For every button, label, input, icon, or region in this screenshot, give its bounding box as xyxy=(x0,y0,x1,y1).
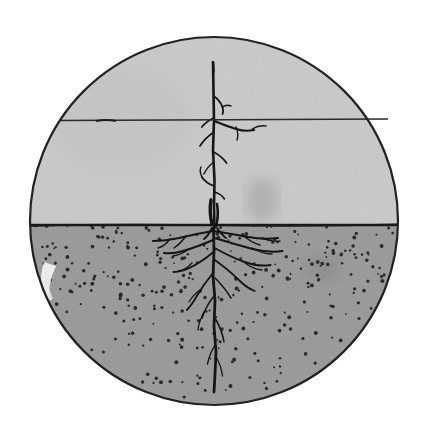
stipple-dot xyxy=(329,316,333,320)
stipple-dot xyxy=(153,307,156,310)
stipple-dot xyxy=(117,270,120,273)
stipple-dot xyxy=(128,333,130,335)
trunk xyxy=(213,62,215,228)
trunk-base-thick xyxy=(210,200,212,224)
stipple-dot xyxy=(387,226,390,229)
stipple-dot xyxy=(345,313,347,315)
stipple-dot xyxy=(177,280,181,284)
stipple-dot xyxy=(130,278,134,282)
stipple-dot xyxy=(144,262,148,266)
stipple-dot xyxy=(149,338,152,341)
stipple-dot xyxy=(156,250,159,253)
stipple-dot xyxy=(232,358,236,362)
stipple-dot xyxy=(200,327,204,331)
stipple-dot xyxy=(306,311,308,313)
stipple-dot xyxy=(366,279,369,282)
stipple-dot xyxy=(289,278,291,280)
stipple-dot xyxy=(293,230,296,233)
stipple-dot xyxy=(289,327,292,330)
stipple-dot xyxy=(64,246,67,249)
stipple-dot xyxy=(87,262,90,265)
stipple-dot xyxy=(353,253,356,256)
stipple-dot xyxy=(344,249,347,252)
stipple-dot xyxy=(55,302,59,306)
stipple-dot xyxy=(71,262,74,265)
stipple-dot xyxy=(285,276,289,280)
stipple-dot xyxy=(246,337,249,340)
stipple-dot xyxy=(206,248,208,250)
stipple-dot xyxy=(308,259,310,261)
stipple-dot xyxy=(263,313,266,316)
stipple-dot xyxy=(46,245,49,248)
stipple-dot xyxy=(174,360,178,364)
stipple-dot xyxy=(92,278,95,281)
stipple-dot xyxy=(279,357,282,360)
stipple-dot xyxy=(297,258,299,260)
stipple-dot xyxy=(371,265,374,268)
stipple-dot xyxy=(230,250,232,252)
stipple-dot xyxy=(196,375,198,377)
stipple-dot xyxy=(332,249,335,252)
stipple-dot xyxy=(41,246,44,249)
stipple-dot xyxy=(277,269,281,273)
stipple-dot xyxy=(160,227,163,230)
stipple-dot xyxy=(238,237,241,240)
stipple-dot xyxy=(275,380,278,383)
stipple-dot xyxy=(132,318,135,321)
stipple-dot xyxy=(248,376,251,379)
stipple-dot xyxy=(261,286,263,288)
stipple-dot xyxy=(264,268,268,272)
stipple-dot xyxy=(225,389,227,391)
stipple-dot xyxy=(350,273,353,276)
stipple-dot xyxy=(101,236,104,239)
stipple-dot xyxy=(112,275,115,278)
stipple-dot xyxy=(274,263,276,265)
stipple-dot xyxy=(236,321,239,324)
stipple-dot xyxy=(183,285,187,289)
stipple-dot xyxy=(91,245,95,249)
stipple-dot xyxy=(334,242,338,246)
stipple-dot xyxy=(383,273,386,276)
stipple-dot xyxy=(375,234,377,236)
stipple-dot xyxy=(192,278,194,280)
stipple-dot xyxy=(90,348,93,351)
stipple-dot xyxy=(320,262,324,266)
stipple-dot xyxy=(155,291,158,294)
stipple-dot xyxy=(278,329,282,333)
stipple-dot xyxy=(326,263,330,267)
stipple-dot xyxy=(291,260,294,263)
stipple-dot xyxy=(116,227,119,230)
stipple-dot xyxy=(126,298,129,301)
stipple-dot xyxy=(253,352,256,355)
stipple-dot xyxy=(156,254,159,257)
stipple-dot xyxy=(148,229,151,232)
stipple-dot xyxy=(378,267,380,269)
stipple-dot xyxy=(201,346,204,349)
stipple-dot xyxy=(353,292,355,294)
stipple-dot xyxy=(66,268,70,272)
stipple-dot xyxy=(151,290,154,293)
stipple-dot xyxy=(179,289,183,293)
stipple-dot xyxy=(279,372,281,374)
stipple-dot xyxy=(102,306,105,309)
stipple-dot xyxy=(182,274,186,278)
stipple-dot xyxy=(304,352,308,356)
stipple-dot xyxy=(219,340,222,343)
stipple-dot xyxy=(94,275,96,277)
stipple-dot xyxy=(44,257,47,260)
stipple-dot xyxy=(380,275,383,278)
stipple-dot xyxy=(283,323,286,326)
stipple-dot xyxy=(153,304,155,306)
stipple-dot xyxy=(377,273,379,275)
stipple-dot xyxy=(244,232,248,236)
stipple-dot xyxy=(134,254,136,256)
stipple-dot xyxy=(303,300,306,303)
stipple-dot xyxy=(141,294,145,298)
stipple-dot xyxy=(181,381,183,383)
stipple-dot xyxy=(307,286,309,288)
stipple-dot xyxy=(290,273,292,275)
stipple-dot xyxy=(158,261,161,264)
stipple-dot xyxy=(106,237,109,240)
stipple-dot xyxy=(113,240,116,243)
stipple-dot xyxy=(141,380,144,383)
